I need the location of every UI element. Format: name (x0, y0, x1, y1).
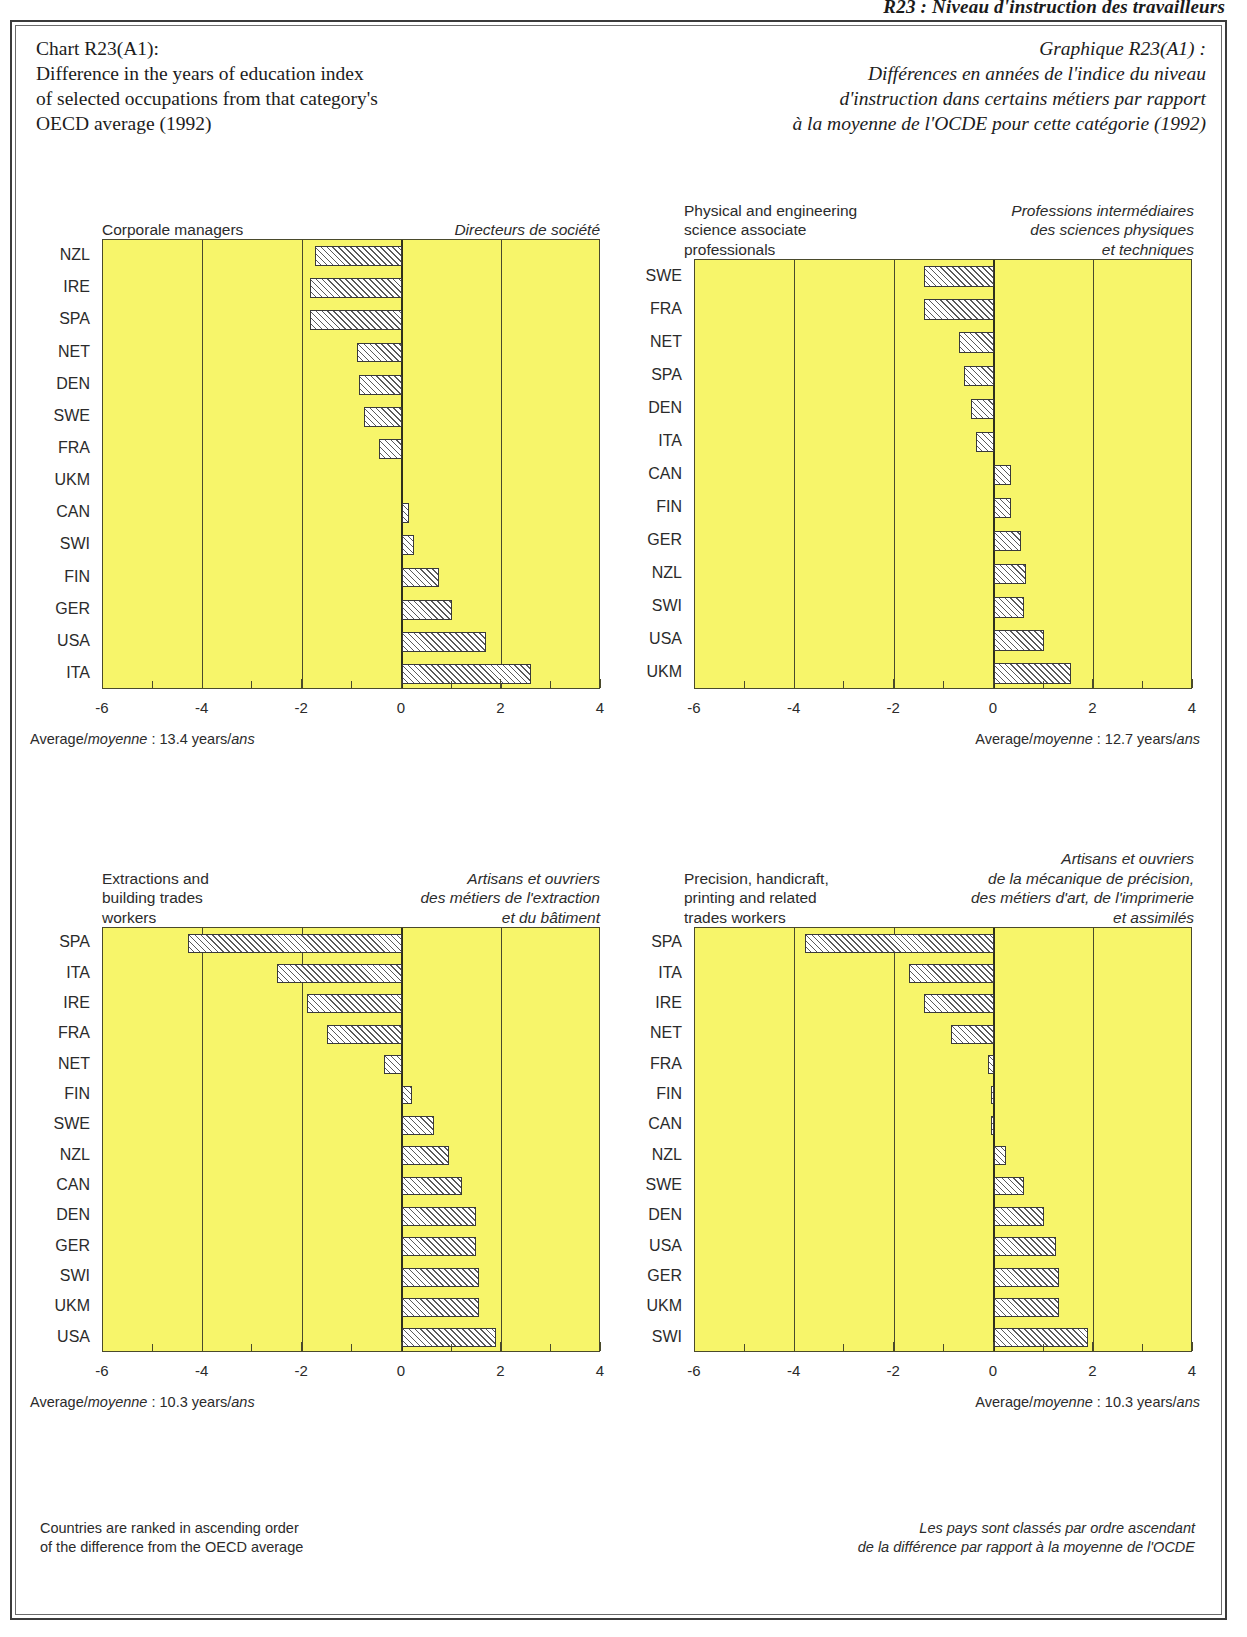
panel-4-title-en-line-3: trades workers (684, 908, 829, 928)
axis-tick-label: -2 (295, 1362, 308, 1379)
gridline (202, 240, 203, 688)
axis-tick-major (600, 679, 601, 688)
bar (994, 1237, 1056, 1256)
bar (379, 439, 401, 459)
bar (315, 246, 402, 266)
category-label: FRA (58, 1024, 90, 1042)
title-fr-line-1: Graphique R23(A1) : (646, 36, 1206, 61)
panel-3-title-en-line-3: workers (102, 908, 209, 928)
panel-3-title-fr-line-3: et du bâtiment (420, 908, 600, 928)
chart-title-block: Chart R23(A1): Difference in the years o… (36, 36, 1206, 136)
axis-tick-label: 0 (397, 699, 405, 716)
bar (310, 310, 402, 330)
gridline (302, 928, 303, 1351)
bar (402, 632, 487, 652)
axis-tick-label: 0 (989, 699, 997, 716)
bar (357, 343, 402, 363)
category-label: UKM (54, 1297, 90, 1315)
category-label: NZL (60, 1146, 90, 1164)
gridline (202, 928, 203, 1351)
panel-2-title-en-line-3: professionals (684, 240, 857, 260)
category-label: FIN (64, 1085, 90, 1103)
category-label: NZL (652, 1146, 682, 1164)
axis-tick-minor (251, 1344, 252, 1351)
axis-tick-major (893, 1342, 894, 1351)
axis-tick-major (202, 679, 203, 688)
bar (951, 1025, 993, 1044)
category-label: ITA (66, 964, 90, 982)
category-label: SWE (54, 1115, 90, 1133)
axis-tick-major (893, 679, 894, 688)
axis-tick-label: 0 (989, 1362, 997, 1379)
axis-tick-label: 4 (596, 699, 604, 716)
axis-tick-minor (152, 1344, 153, 1351)
bar (402, 568, 439, 588)
bar (364, 407, 401, 427)
bar (924, 299, 994, 320)
bar (188, 934, 402, 953)
bar (924, 266, 994, 287)
bar (402, 535, 414, 555)
axis-tick-label: -4 (195, 1362, 208, 1379)
gridline (501, 240, 502, 688)
title-en-line-1: Chart R23(A1): (36, 36, 556, 61)
axis-tick-major (1192, 1342, 1193, 1351)
panel-2-title-fr: Professions intermédiaires des sciences … (1011, 201, 1194, 260)
axis-tick-major (1092, 679, 1093, 688)
category-label: FIN (64, 568, 90, 586)
category-label: SWI (652, 597, 682, 615)
axis-tick-label: 4 (1188, 699, 1196, 716)
bar (384, 1055, 401, 1074)
gridline (894, 260, 895, 688)
plot-rect (102, 927, 600, 1352)
axis-tick-minor (1043, 681, 1044, 688)
chart-title-english: Chart R23(A1): Difference in the years o… (36, 36, 556, 136)
axis-tick-label: -2 (887, 1362, 900, 1379)
axis-tick-minor (1043, 1344, 1044, 1351)
category-label: SWE (54, 407, 90, 425)
bar (991, 1086, 994, 1105)
footnote-en-line-2: of the difference from the OECD average (40, 1538, 303, 1557)
category-label: CAN (56, 1176, 90, 1194)
bar (402, 664, 531, 684)
title-en-line-3: of selected occupations from that catego… (36, 86, 556, 111)
axis-tick-minor (451, 681, 452, 688)
bar (994, 597, 1024, 618)
axis-tick-major (694, 679, 695, 688)
panel-4-title-fr-line-1: Artisans et ouvriers (971, 849, 1194, 869)
axis-tick-minor (744, 1344, 745, 1351)
category-label: USA (649, 1237, 682, 1255)
axis-tick-minor (744, 681, 745, 688)
panel-4-title-fr-line-2: de la mécanique de précision, (971, 869, 1194, 889)
panel-1-title-fr-line: Directeurs de société (454, 220, 600, 240)
axis-tick-label: -6 (687, 699, 700, 716)
bar (402, 1086, 412, 1105)
category-label: UKM (54, 471, 90, 489)
panel-4-title-en-line-1: Precision, handicraft, (684, 869, 829, 889)
axis-tick-minor (943, 1344, 944, 1351)
panel-2-header: Physical and engineering science associa… (622, 177, 1200, 259)
bar (994, 1268, 1059, 1287)
panel-2-title-en: Physical and engineering science associa… (684, 201, 857, 260)
category-label: GER (647, 531, 682, 549)
panel-1-title-en-line: Corporale managers (102, 220, 243, 240)
category-label: SWI (652, 1328, 682, 1346)
category-label: FRA (650, 300, 682, 318)
axis-tick-major (993, 1342, 994, 1351)
axis-tick-minor (451, 1344, 452, 1351)
category-label: FRA (58, 439, 90, 457)
axis-tick-label: 0 (397, 1362, 405, 1379)
category-label: SWI (60, 1267, 90, 1285)
panel-physical-engineering-associates: Physical and engineering science associa… (622, 177, 1200, 817)
bar (402, 1298, 479, 1317)
title-fr-line-4: à la moyenne de l'OCDE pour cette catégo… (646, 111, 1206, 136)
category-label: IRE (63, 994, 90, 1012)
panel-2-title-fr-line-3: et techniques (1011, 240, 1194, 260)
bar (402, 1177, 462, 1196)
bar (994, 1207, 1044, 1226)
axis-tick-minor (550, 681, 551, 688)
category-label: SPA (59, 933, 90, 951)
axis-tick-minor (550, 1344, 551, 1351)
axis-tick-major (694, 1342, 695, 1351)
panel-3-title-en: Extractions and building trades workers (102, 869, 209, 928)
